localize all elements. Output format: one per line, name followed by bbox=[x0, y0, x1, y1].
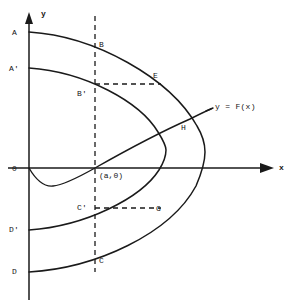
point-label-D-prime: D′ bbox=[9, 226, 19, 234]
point-label-G: G bbox=[156, 205, 161, 213]
point-a-zero-label: (a,0) bbox=[99, 172, 123, 180]
origin-label: 0 bbox=[12, 165, 17, 173]
point-label-E: E bbox=[153, 72, 158, 80]
point-label-A: A bbox=[12, 29, 17, 37]
point-label-H: H bbox=[181, 124, 186, 132]
point-label-A-prime: A′ bbox=[9, 65, 19, 73]
point-label-B-prime: B′ bbox=[77, 90, 87, 98]
point-label-B: B bbox=[99, 41, 104, 49]
math-figure: y x A A′ B B′ E H C′ G D′ C D 0 (a,0) y … bbox=[0, 0, 290, 307]
inner-curve bbox=[29, 68, 166, 230]
function-curve-tail bbox=[206, 108, 213, 111]
point-label-D: D bbox=[12, 268, 17, 276]
x-axis-label: x bbox=[279, 164, 284, 172]
y-axis-arrowhead bbox=[25, 12, 33, 24]
figure-canvas bbox=[0, 0, 290, 307]
point-label-C: C bbox=[99, 257, 104, 265]
y-axis-label: y bbox=[41, 10, 46, 18]
x-axis-arrowhead bbox=[260, 163, 274, 173]
function-label: y = F(x) bbox=[215, 103, 256, 111]
outer-curve bbox=[29, 32, 205, 272]
point-label-C-prime: C′ bbox=[77, 204, 87, 212]
